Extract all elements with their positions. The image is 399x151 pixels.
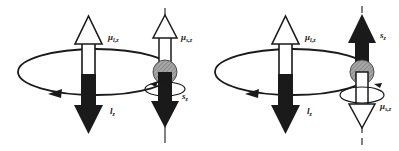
spin-up-panel: μl,z lz sz μs,z [200, 0, 399, 151]
physics-vector-diagram: μl,z lz μs,z sz [0, 0, 399, 151]
right-panel-canvas: μl,z lz sz μs,z [200, 0, 399, 151]
orbital-down-label: lz [110, 106, 116, 117]
spin-up-arrow-head [348, 14, 376, 43]
spin-down-arrow-head [151, 101, 179, 128]
orbital-up-arrow-shaft [82, 42, 95, 76]
orbital-up-label: μl,z [304, 32, 316, 43]
spin-down-label: μs,z [379, 101, 392, 112]
spin-up-arrow-head [153, 15, 177, 38]
spin-down-arrow-shaft [158, 72, 172, 104]
spin-down-label: sz [181, 91, 189, 102]
left-panel-canvas: μl,z lz μs,z sz [0, 0, 199, 151]
spin-up-label: μs,z [180, 32, 193, 43]
orbital-up-arrow-head [75, 16, 102, 44]
orbital-down-arrow-head [271, 105, 300, 134]
spin-precession-arrowhead [374, 83, 382, 88]
spin-down-arrow-head [349, 104, 375, 128]
spin-down-panel: μl,z lz μs,z sz [0, 0, 199, 151]
orbital-up-arrow-head [272, 16, 299, 44]
orbital-down-label: lz [307, 106, 313, 117]
orbital-down-arrow-head [74, 105, 103, 134]
spin-down-arrow-shaft [356, 72, 368, 106]
orbital-down-arrow-shaft [278, 74, 293, 108]
spin-up-label: sz [379, 30, 387, 41]
orbital-up-label: μl,z [107, 32, 119, 43]
orbital-up-arrow-shaft [279, 42, 292, 76]
orbital-down-arrow-shaft [81, 74, 96, 108]
